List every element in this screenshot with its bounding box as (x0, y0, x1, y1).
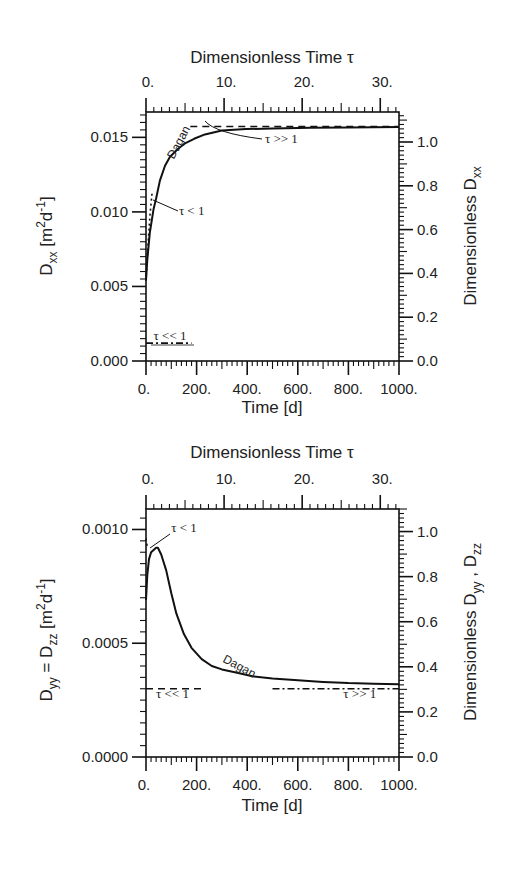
right-tick-label: 0.2 (417, 308, 438, 325)
x-axis-tick-labels: 0.200.400.600.800.1000. (138, 380, 418, 397)
right-axis-title: Dimensionless Dxx (461, 166, 484, 306)
top-axis-tick-labels: 0.10.20.30. (142, 73, 393, 90)
annotations: τ < 1Daganτ << 1τ >> 1 (150, 520, 376, 701)
right-tick-label: 0.8 (417, 568, 438, 585)
y-tick-label: 0.000 (90, 352, 128, 369)
right-axis-title: Dimensionless Dyy , Dzz (461, 543, 484, 721)
left-axis-tick-labels: 0.00000.00050.0010 (82, 520, 128, 765)
x-axis-title: Time [d] (242, 398, 303, 417)
x-tick-label: 400. (233, 776, 262, 793)
y-tick-label: 0.010 (90, 203, 128, 220)
right-tick-label: 0.4 (417, 264, 438, 281)
plot-series (146, 539, 399, 689)
y-tick-label: 0.0010 (82, 520, 128, 537)
top-tick-label: 10. (216, 470, 237, 487)
top-tick-label: 30. (372, 73, 393, 90)
right-tick-label: 0.2 (417, 703, 438, 720)
top-axis-tick-labels: 0.10.20.30. (142, 470, 393, 487)
x-tick-label: 1000. (380, 380, 418, 397)
x-tick-label: 400. (233, 380, 262, 397)
x-tick-label: 800. (334, 776, 363, 793)
left-axis-tick-labels: 0.0000.0050.0100.015 (90, 128, 128, 369)
plot-frame (146, 112, 399, 361)
y-tick-label: 0.015 (90, 128, 128, 145)
right-tick-label: 0.8 (417, 177, 438, 194)
plot-series (146, 127, 399, 344)
x-tick-label: 200. (182, 776, 211, 793)
figure: Dimensionless Time τ 0.10.20.30. Daganτ … (0, 0, 516, 870)
annotation-label: τ < 1 (179, 203, 205, 218)
panel-top-dxx: Dimensionless Time τ 0.10.20.30. Daganτ … (34, 48, 484, 417)
leader-line (150, 534, 170, 548)
top-tick-label: 0. (142, 73, 155, 90)
annotation-label: τ >> 1 (343, 686, 376, 701)
right-tick-label: 0.0 (417, 748, 438, 765)
annotations: Daganτ >> 1τ < 1τ << 1 (151, 121, 298, 345)
y-axis-title: Dxx [m2d-1] (34, 196, 60, 275)
right-axis-tick-labels: 0.00.20.40.60.81.0 (417, 523, 438, 765)
series-dagan (146, 548, 399, 685)
x-tick-label: 0. (138, 776, 151, 793)
x-tick-label: 600. (283, 776, 312, 793)
annotation-label: τ < 1 (171, 520, 197, 535)
top-axis-title: Dimensionless Time τ (190, 48, 354, 67)
x-axis-tick-labels: 0.200.400.600.800.1000. (138, 776, 418, 793)
x-tick-label: 1000. (380, 776, 418, 793)
panel-bottom-dyy-dzz: Dimensionless Time τ 0.10.20.30. τ < 1Da… (34, 443, 484, 815)
y-axis-title: Dyy = Dzz [m2d-1] (34, 578, 60, 701)
leader-line (153, 200, 178, 211)
right-tick-label: 1.0 (417, 523, 438, 540)
annotation-label: Dagan (220, 652, 258, 681)
top-tick-label: 30. (372, 470, 393, 487)
axes-frame (132, 495, 413, 771)
right-tick-label: 0.6 (417, 613, 438, 630)
right-tick-label: 1.0 (417, 133, 438, 150)
annotation-label: τ << 1 (156, 686, 189, 701)
y-tick-label: 0.005 (90, 277, 128, 294)
top-tick-label: 20. (294, 470, 315, 487)
right-axis-tick-labels: 0.00.20.40.60.81.0 (417, 133, 438, 369)
right-tick-label: 0.6 (417, 221, 438, 238)
right-tick-label: 0.0 (417, 352, 438, 369)
top-axis-title: Dimensionless Time τ (190, 443, 354, 462)
x-tick-label: 800. (334, 380, 363, 397)
x-tick-label: 0. (138, 380, 151, 397)
right-tick-label: 0.4 (417, 658, 438, 675)
y-tick-label: 0.0005 (82, 634, 128, 651)
annotation-label: τ << 1 (154, 328, 187, 343)
x-tick-label: 200. (182, 380, 211, 397)
y-tick-label: 0.0000 (82, 748, 128, 765)
x-tick-label: 600. (283, 380, 312, 397)
top-tick-label: 10. (216, 73, 237, 90)
top-tick-label: 20. (294, 73, 315, 90)
x-axis-title: Time [d] (242, 796, 303, 815)
annotation-label: τ >> 1 (265, 131, 298, 146)
top-tick-label: 0. (142, 470, 155, 487)
